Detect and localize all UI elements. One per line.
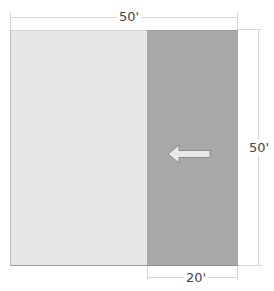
top-dimension-tick-left — [10, 13, 11, 30]
right-dimension-label: 50' — [249, 140, 269, 155]
left-arrow-icon — [166, 143, 212, 165]
bottom-dimension-tick-right — [237, 266, 238, 280]
right-dimension-tick-bottom — [238, 265, 262, 266]
bottom-dimension-tick-left — [147, 266, 148, 280]
light-region — [10, 30, 147, 266]
top-dimension-tick-right — [237, 13, 238, 30]
bottom-dimension-label: 20' — [184, 271, 208, 284]
right-dimension-tick-top — [238, 29, 262, 30]
top-dimension-label: 50' — [117, 10, 141, 23]
